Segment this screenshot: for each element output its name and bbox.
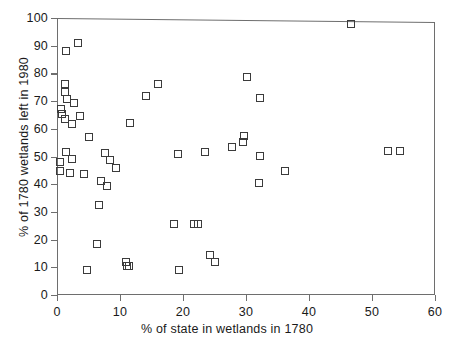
x-tick-mark [309, 295, 310, 301]
data-point [239, 138, 247, 146]
scatter-chart-figure: 0102030405060708090100 0102030405060 % o… [0, 0, 454, 349]
data-point [83, 266, 91, 274]
data-point [243, 73, 251, 81]
data-point [201, 148, 209, 156]
x-tick-mark [57, 295, 58, 301]
data-point [126, 119, 134, 127]
y-tick-mark [51, 46, 57, 47]
data-point [70, 99, 78, 107]
data-point [256, 94, 264, 102]
data-point [175, 266, 183, 274]
axis-spine-right [434, 22, 435, 295]
x-axis-label: % of state in wetlands in 1780 [0, 322, 454, 336]
data-point [56, 167, 64, 175]
y-tick-label: 20 [34, 233, 48, 247]
data-point [62, 47, 70, 55]
data-point [80, 170, 88, 178]
x-tick-mark [183, 295, 184, 301]
data-point [170, 220, 178, 228]
y-tick-label: 80 [34, 66, 48, 80]
y-tick-label: 40 [34, 177, 48, 191]
data-point [61, 80, 69, 88]
x-tick-mark [246, 295, 247, 301]
y-tick-label: 30 [34, 205, 48, 219]
data-point [384, 147, 392, 155]
x-tick-label: 10 [113, 305, 127, 319]
data-point [68, 155, 76, 163]
data-point [93, 240, 101, 248]
data-point [347, 20, 355, 28]
y-tick-mark [51, 240, 57, 241]
y-tick-label: 90 [34, 39, 48, 53]
x-tick-mark [372, 295, 373, 301]
data-point [66, 169, 74, 177]
data-point [142, 92, 150, 100]
plot-area: 0102030405060708090100 0102030405060 [57, 18, 435, 295]
y-tick-mark [51, 212, 57, 213]
data-point [95, 201, 103, 209]
data-point [281, 167, 289, 175]
data-point [106, 156, 114, 164]
data-point [396, 147, 404, 155]
axis-spine-left [57, 18, 58, 295]
x-tick-label: 60 [428, 305, 442, 319]
data-point [211, 258, 219, 266]
y-tick-label: 50 [34, 150, 48, 164]
axis-spine-top [57, 18, 435, 23]
x-tick-label: 50 [365, 305, 379, 319]
x-tick-label: 0 [53, 305, 60, 319]
y-tick-label: 10 [34, 260, 48, 274]
data-point [85, 133, 93, 141]
data-point [174, 150, 182, 158]
x-tick-label: 30 [239, 305, 253, 319]
data-point [194, 220, 202, 228]
data-point [68, 120, 76, 128]
y-tick-label: 70 [34, 94, 48, 108]
y-tick-label: 100 [27, 11, 48, 25]
x-tick-label: 40 [302, 305, 316, 319]
data-point [56, 158, 64, 166]
data-point [74, 39, 82, 47]
y-tick-label: 0 [41, 288, 48, 302]
y-tick-mark [51, 73, 57, 74]
x-tick-label: 20 [176, 305, 190, 319]
data-point [256, 152, 264, 160]
y-axis-label: % of 1780 wetlands left in 1980 [17, 27, 31, 267]
data-point [76, 112, 84, 120]
y-tick-mark [51, 18, 57, 19]
y-tick-mark [51, 101, 57, 102]
y-tick-mark [51, 267, 57, 268]
data-point [228, 143, 236, 151]
y-tick-label: 60 [34, 122, 48, 136]
data-point [255, 179, 263, 187]
data-point [103, 182, 111, 190]
y-tick-mark [51, 129, 57, 130]
data-point [112, 164, 120, 172]
x-tick-mark [435, 295, 436, 301]
data-point [123, 262, 131, 270]
y-tick-mark [51, 184, 57, 185]
x-tick-mark [120, 295, 121, 301]
data-point [154, 80, 162, 88]
